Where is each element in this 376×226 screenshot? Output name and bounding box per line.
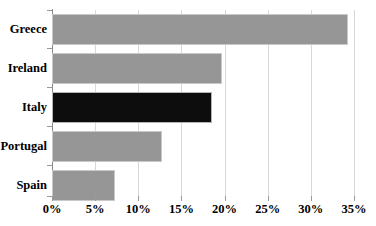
x-axis-tick [52,196,53,201]
y-axis-label-italy: Italy [0,101,47,114]
x-axis-tick [311,196,312,201]
bar-spain [52,170,115,201]
bar-greece [52,14,348,45]
y-axis-label-greece: Greece [0,23,47,36]
x-axis-tick [95,196,96,201]
y-axis-category-labels: Greece Ireland Italy Portugal Spain [0,0,47,226]
y-axis-label-ireland: Ireland [0,62,47,75]
x-axis-tick [268,196,269,201]
y-axis-label-portugal: Portugal [0,140,47,153]
bar-italy [52,92,212,123]
bar-chart: Greece Ireland Italy Portugal Spain 0%5%… [0,0,376,226]
x-axis-tick [181,196,182,201]
gridline [354,10,355,196]
x-axis-label-15pct: 15% [169,203,194,216]
x-axis-label-5pct: 5% [86,203,105,216]
x-axis-tick [138,196,139,201]
x-axis-label-0pct: 0% [43,203,62,216]
x-axis-label-20pct: 20% [212,203,237,216]
bar-portugal [52,131,162,162]
x-axis-label-25pct: 25% [255,203,280,216]
x-axis-label-30pct: 30% [298,203,323,216]
bar-ireland [52,53,222,84]
x-axis-tick [225,196,226,201]
x-axis-tick [354,196,355,201]
plot-area [52,10,354,196]
x-axis-label-35pct: 35% [342,203,367,216]
x-axis-label-10pct: 10% [126,203,151,216]
y-axis-label-spain: Spain [0,179,47,192]
